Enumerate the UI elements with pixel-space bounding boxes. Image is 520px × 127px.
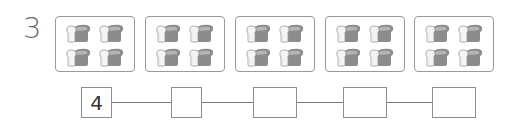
- answer-box-1[interactable]: 4: [81, 87, 112, 118]
- bread-group-2: [145, 16, 225, 72]
- bread-loaf-icon: [65, 23, 91, 43]
- bread-loaf-icon: [424, 23, 450, 43]
- bread-loaf-icon: [368, 23, 394, 43]
- bread-group-1: [55, 16, 135, 72]
- bread-loaf-icon: [188, 47, 214, 67]
- bread-loaf-icon: [424, 47, 450, 67]
- bread-loaf-icon: [98, 23, 124, 43]
- answer-box-2[interactable]: [171, 87, 202, 118]
- bread-loaf-icon: [98, 47, 124, 67]
- answer-box-3[interactable]: [253, 87, 297, 118]
- bread-loaf-icon: [335, 47, 361, 67]
- bread-loaf-icon: [457, 47, 483, 67]
- bread-group-3: [235, 16, 315, 72]
- bread-loaf-icon: [245, 47, 271, 67]
- bread-loaf-icon: [457, 23, 483, 43]
- bread-loaf-icon: [278, 23, 304, 43]
- bread-loaf-icon: [155, 47, 181, 67]
- chain-connector-line: [387, 102, 432, 103]
- chain-connector-line: [297, 102, 343, 103]
- bread-group-4: [325, 16, 405, 72]
- bread-loaf-icon: [335, 23, 361, 43]
- bread-loaf-icon: [245, 23, 271, 43]
- bread-loaf-icon: [188, 23, 214, 43]
- chain-connector-line: [202, 102, 253, 103]
- problem-number: 3: [23, 10, 41, 46]
- bread-group-5: [414, 16, 494, 72]
- answer-box-4[interactable]: [343, 87, 387, 118]
- bread-loaf-icon: [65, 47, 91, 67]
- bread-loaf-icon: [368, 47, 394, 67]
- chain-connector-line: [112, 102, 171, 103]
- bread-loaf-icon: [155, 23, 181, 43]
- bread-loaf-icon: [278, 47, 304, 67]
- answer-box-5[interactable]: [432, 87, 476, 118]
